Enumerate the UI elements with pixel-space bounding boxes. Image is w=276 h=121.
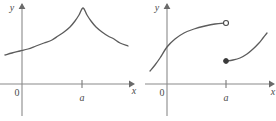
left-panel-y-axis-arrow: [19, 3, 26, 9]
left-panel-x-tick-a-label: a: [80, 92, 85, 103]
right-panel-right-branch-curve: [226, 33, 267, 61]
left-panel: y 0 a x: [0, 2, 137, 116]
right-panel-open-endpoint-marker: [224, 21, 229, 26]
right-panel-left-branch-curve: [150, 23, 226, 71]
right-panel: y 0 a x: [145, 2, 276, 116]
right-panel-y-axis-arrow: [164, 3, 171, 9]
math-figure: y 0 a x y 0 a x: [0, 0, 276, 121]
left-panel-y-axis-label: y: [9, 2, 15, 13]
right-panel-x-tick-a-label: a: [224, 92, 229, 103]
right-panel-closed-endpoint-marker: [224, 59, 229, 64]
left-panel-origin-label: 0: [15, 87, 20, 98]
right-panel-x-axis-label: x: [270, 86, 276, 97]
right-panel-origin-label: 0: [160, 87, 165, 98]
left-panel-curve: [5, 8, 128, 55]
right-panel-y-axis-label: y: [154, 2, 160, 13]
left-panel-x-axis-label: x: [131, 85, 137, 96]
